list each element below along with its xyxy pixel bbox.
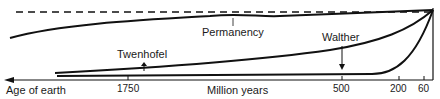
axis-center-label: Million years [207, 84, 269, 96]
walther-arrowhead [339, 64, 345, 70]
tick-label-60: 60 [418, 83, 430, 94]
permanency-label: Permanency [202, 26, 264, 38]
walther-curve [55, 10, 433, 73]
geologic-diagram: Permanency Walther Twenhofel Age of eart… [0, 0, 440, 99]
tick-label-1750: 1750 [117, 83, 140, 94]
time-axis-arrowhead [4, 77, 14, 83]
axis-left-label: Age of earth [6, 84, 66, 96]
twenhofel-arrowhead [141, 62, 147, 66]
twenhofel-label: Twenhofel [117, 48, 167, 60]
tick-label-500: 500 [333, 83, 350, 94]
twenhofel-curve [57, 10, 433, 76]
walther-label: Walther [322, 31, 360, 43]
tick-label-200: 200 [390, 83, 407, 94]
